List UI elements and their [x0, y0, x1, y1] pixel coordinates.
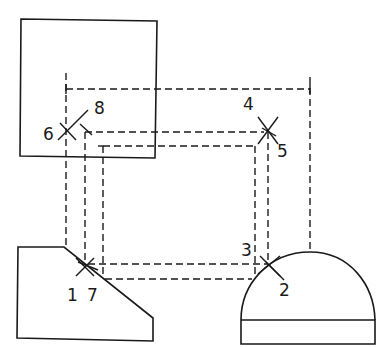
point-label-3: 3 — [241, 240, 252, 260]
point-label-8: 8 — [94, 98, 105, 118]
cross-mark-1-7 — [76, 258, 98, 276]
point-label-2: 2 — [279, 280, 290, 300]
dome-arc — [241, 252, 375, 320]
dome-base — [241, 320, 375, 344]
projection-diagram: 6 8 4 5 1 7 3 2 — [0, 0, 377, 347]
cross-mark-6-8 — [58, 110, 92, 140]
point-label-4: 4 — [243, 94, 254, 114]
point-label-7: 7 — [87, 285, 98, 305]
diagram-canvas: 6 8 4 5 1 7 3 2 — [0, 0, 377, 347]
point-label-1: 1 — [67, 285, 78, 305]
point-label-6: 6 — [43, 124, 54, 144]
chamfered-block — [17, 247, 153, 341]
cross-mark-4-5 — [258, 117, 278, 144]
point-label-5: 5 — [277, 141, 288, 161]
cross-mark-2-3 — [258, 256, 284, 280]
inner-projection-lines — [98, 146, 255, 279]
